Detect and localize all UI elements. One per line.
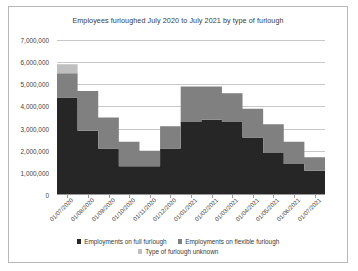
y-tick-label: 5,000,000 — [21, 81, 49, 88]
x-axis-labels: 01/07/202001/08/202001/09/202001/10/2020… — [57, 197, 325, 237]
x-tick — [212, 195, 213, 198]
legend-swatch-icon — [178, 239, 183, 244]
legend-swatch-icon — [77, 239, 82, 244]
y-axis-labels: 01,000,0002,000,0003,000,0004,000,0005,0… — [9, 40, 53, 195]
stacked-area-series — [57, 40, 325, 195]
chart-title: Employees furloughed July 2020 to July 2… — [9, 16, 347, 25]
legend-row-secondary: Type of furlough unknown — [9, 248, 347, 255]
legend-item[interactable]: Type of furlough unknown — [138, 248, 219, 255]
y-tick-label: 2,000,000 — [21, 147, 49, 154]
chart-legend: Employments on full furloughEmployments … — [9, 238, 347, 258]
y-tick-label: 7,000,000 — [21, 37, 49, 44]
plot-area — [57, 40, 325, 195]
y-tick-label: 1,000,000 — [21, 169, 49, 176]
y-tick-label: 6,000,000 — [21, 59, 49, 66]
legend-swatch-icon — [138, 249, 143, 254]
y-tick-label: 0 — [45, 192, 49, 199]
legend-item[interactable]: Employments on full furlough — [77, 238, 167, 245]
y-tick-label: 3,000,000 — [21, 125, 49, 132]
chart-figure: Employees furloughed July 2020 to July 2… — [8, 6, 348, 263]
legend-label: Type of furlough unknown — [145, 248, 218, 255]
legend-label: Employments on flexible furlough — [185, 238, 279, 245]
y-tick-label: 4,000,000 — [21, 103, 49, 110]
legend-label: Employments on full furlough — [84, 238, 166, 245]
legend-row-primary: Employments on full furloughEmployments … — [9, 238, 347, 245]
legend-item[interactable]: Employments on flexible furlough — [178, 238, 280, 245]
x-tick — [109, 195, 110, 198]
